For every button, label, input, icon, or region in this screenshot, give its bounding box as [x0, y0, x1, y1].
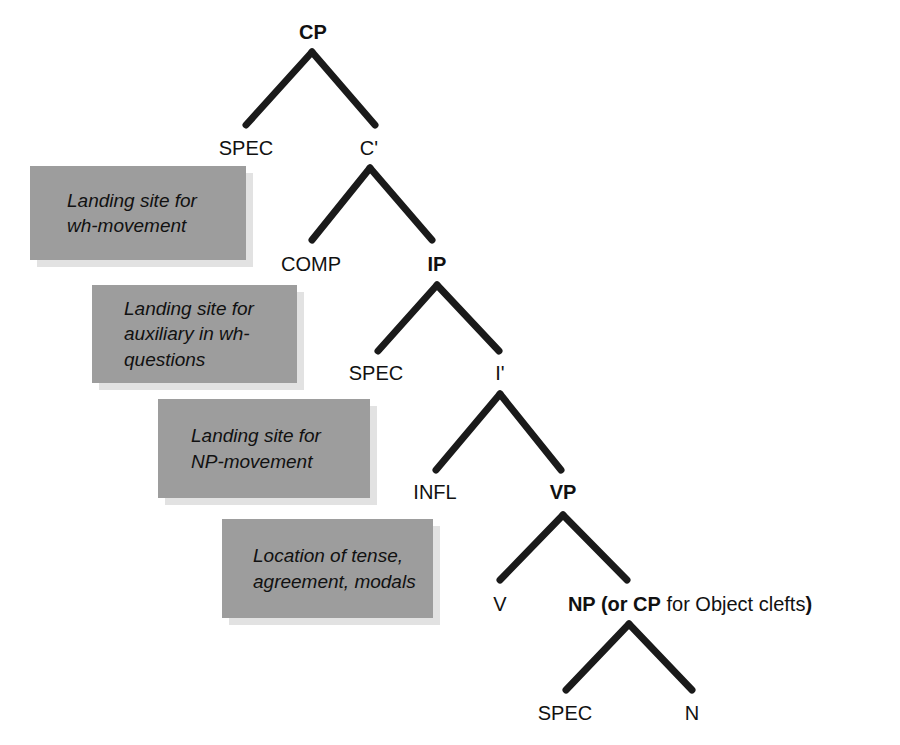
node-spec-ip: SPEC [349, 363, 403, 383]
node-c-bar: C' [360, 138, 378, 158]
branch-np-n [629, 624, 692, 690]
node-ip: IP [428, 254, 447, 274]
branch-cbar-comp [312, 168, 370, 240]
node-np-part-cp: CP [633, 593, 661, 615]
callout-text: Landing site for auxiliary in wh- questi… [92, 296, 262, 371]
branch-np-spec [566, 624, 629, 690]
node-spec-cp: SPEC [219, 138, 273, 158]
branch-cp-cbar [312, 52, 375, 125]
syntax-tree-diagram: CP SPEC C' COMP IP SPEC I' INFL VP V NP … [0, 0, 900, 745]
callout-landing-site-np-movement: Landing site for NP-movement [158, 399, 370, 498]
callout-landing-site-auxiliary: Landing site for auxiliary in wh- questi… [92, 285, 297, 383]
node-spec-np: SPEC [538, 703, 592, 723]
branch-ip-spec [378, 285, 437, 351]
node-np-part-regular: for Object clefts [661, 593, 806, 615]
branch-ibar-infl [436, 394, 500, 470]
node-np: NP (or CP for Object clefts) [568, 594, 812, 614]
node-i-bar: I' [495, 363, 504, 383]
callout-text: Landing site for NP-movement [158, 423, 329, 473]
branch-vp-np [563, 515, 627, 580]
callout-text: Location of tense, agreement, modals [222, 543, 424, 593]
node-infl: INFL [413, 482, 456, 502]
branch-cbar-ip [370, 168, 432, 240]
branch-ip-ibar [437, 285, 499, 351]
callout-landing-site-wh-movement: Landing site for wh-movement [30, 166, 246, 260]
node-np-part-bold-open: NP (or [568, 593, 633, 615]
node-cp: CP [299, 22, 327, 42]
branch-ibar-vp [500, 394, 561, 470]
node-n: N [685, 703, 699, 723]
node-np-part-bold-close: ) [805, 593, 812, 615]
node-comp: COMP [281, 254, 341, 274]
branch-cp-spec [246, 52, 312, 125]
node-v: V [493, 594, 506, 614]
callout-location-of-tense: Location of tense, agreement, modals [222, 519, 433, 618]
callout-text: Landing site for wh-movement [30, 188, 205, 238]
node-vp: VP [550, 482, 577, 502]
branch-vp-v [500, 515, 563, 580]
